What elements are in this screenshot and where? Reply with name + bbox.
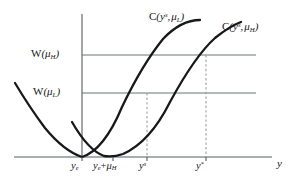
- curve-label-high-arg-sup: s: [238, 21, 241, 28]
- cost-schedule-figure: C(ys, μL) C(ys, μH) W(μH) W(μL) ye ye+μH…: [0, 0, 293, 187]
- tick-label-yemuh-mu-sub: H: [112, 164, 117, 171]
- tick-label-yemuh: ye+μH: [93, 161, 116, 172]
- curve-label-low-fn: C: [149, 10, 156, 22]
- level-label-low: W(μL): [33, 86, 60, 97]
- level-label-high: W(μH): [31, 48, 59, 59]
- curve-label-low: C(ys, μL): [149, 11, 184, 22]
- curve-label-high: C(ys, μH): [222, 21, 258, 32]
- x-axis-label: y: [277, 158, 282, 169]
- level-label-high-fn: W: [31, 47, 41, 59]
- tick-label-ye: ye: [71, 161, 79, 172]
- level-label-low-fn: W: [33, 85, 43, 97]
- level-label-high-mu-sub: H: [51, 53, 56, 60]
- curve-label-low-arg-sup: s: [165, 11, 168, 18]
- tick-label-ye-sub: e: [76, 164, 79, 171]
- tick-label-ystar-sup: *: [201, 160, 204, 167]
- tick-label-ystar: y*: [196, 161, 204, 172]
- curve-label-low-mu-sub: L: [177, 16, 181, 23]
- curve-label-high-mu-sub: H: [250, 26, 255, 33]
- tick-label-ys-sup: s: [144, 160, 147, 167]
- cost-curve-high: [72, 22, 241, 156]
- curve-label-high-fn: C: [222, 20, 229, 32]
- tick-label-ys: ys: [139, 161, 146, 172]
- level-label-low-mu-sub: L: [53, 91, 57, 98]
